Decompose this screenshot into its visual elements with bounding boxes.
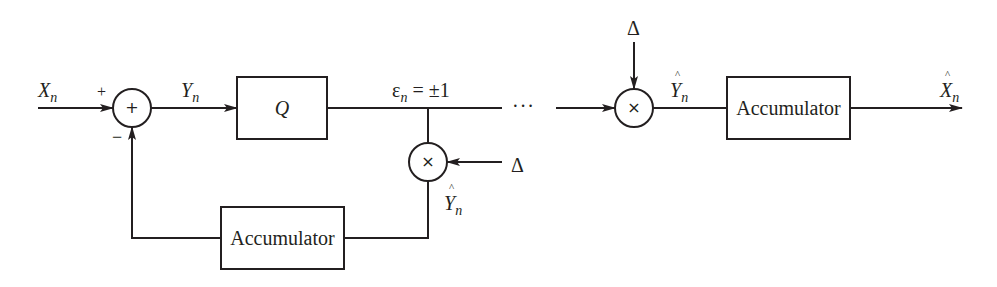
encoder-step-label: Δ: [511, 155, 524, 175]
plus-sign-label: +: [97, 84, 106, 100]
summer-plus-icon: +: [125, 100, 138, 116]
multiplier-to-accumulator-line: [344, 181, 428, 238]
channel-ellipsis: ···: [512, 96, 535, 116]
quantizer-label: Q: [237, 77, 327, 139]
feedback-label: Yn: [444, 193, 462, 213]
diagram-canvas: [0, 0, 997, 287]
encoder-multiply-icon: ×: [421, 154, 434, 170]
decoder-multiplier-output-label: Yn: [670, 80, 688, 100]
minus-sign-label: −: [112, 128, 122, 146]
input-label: Xn: [38, 80, 57, 100]
decoder-step-label: Δ: [627, 18, 640, 38]
feedback-accumulator-label: Accumulator: [221, 207, 344, 269]
sum-output-label: Yn: [181, 80, 199, 100]
feedback-arrow: [132, 127, 221, 238]
decoder-accumulator-label: Accumulator: [727, 77, 850, 139]
output-label: Xn: [940, 80, 959, 100]
decoder-multiply-icon: ×: [627, 100, 640, 116]
quantizer-output-label: εn = ±1: [392, 80, 450, 100]
